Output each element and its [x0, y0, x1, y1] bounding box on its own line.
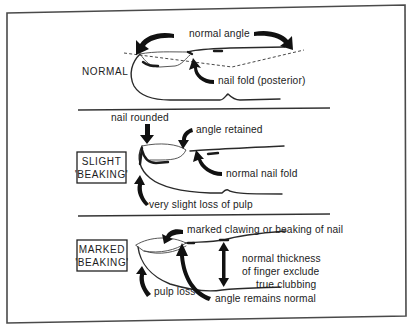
- panel-caption-normal: NORMAL: [82, 66, 128, 77]
- divider-2: [78, 214, 330, 216]
- panel-normal: NORMAL normal angle nail fold (posterior…: [82, 28, 306, 100]
- label-angle-retained: angle retained: [196, 124, 263, 135]
- divider-1: [78, 108, 330, 110]
- arrow-marked-clawing-icon: [162, 229, 183, 244]
- finger-normal-illustration: [124, 47, 304, 100]
- label-normal-angle: normal angle: [189, 28, 250, 39]
- label-nail-rounded: nail rounded: [111, 112, 169, 123]
- label-normal-thickness-line2: of finger exclude: [242, 266, 319, 277]
- label-pulp-loss: pulp loss: [154, 286, 196, 297]
- double-arrow-thickness-icon: [218, 242, 229, 287]
- label-nail-fold-posterior: nail fold (posterior): [218, 75, 306, 86]
- arrow-nail-rounded-icon: [140, 124, 154, 144]
- panel-caption-marked-line1: MARKED: [79, 244, 125, 255]
- label-very-slight-loss-of-pulp: very slight loss of pulp: [149, 199, 253, 210]
- label-normal-thickness-line1: normal thickness: [242, 253, 321, 264]
- arrow-pulp-slight-icon: [134, 175, 149, 206]
- label-angle-remains-normal: angle remains normal: [215, 293, 316, 304]
- nail-beaking-diagram: NORMAL normal angle nail fold (posterior…: [0, 0, 414, 328]
- panel-slight-beaking: SLIGHT 'BEAKING' nail rounded angle reta…: [75, 112, 298, 210]
- outer-frame: [7, 5, 406, 323]
- arrow-nail-fold-icon: [189, 58, 214, 84]
- label-marked-clawing: marked clawing or beaking of nail: [187, 224, 343, 235]
- arrow-angle-retained-icon: [178, 128, 193, 149]
- panel-caption-slight-line2: 'BEAKING': [75, 169, 129, 180]
- panel-caption-marked-line2: 'BEAKING': [75, 257, 129, 268]
- panel-caption-slight-line1: SLIGHT: [82, 156, 122, 167]
- panel-marked-beaking: MARKED 'BEAKING' marked clawing or beaki…: [75, 224, 343, 304]
- label-normal-thickness-line3: true clubbing: [256, 279, 316, 290]
- diagram-canvas: NORMAL normal angle nail fold (posterior…: [0, 0, 414, 328]
- label-normal-nail-fold: normal nail fold: [226, 168, 298, 179]
